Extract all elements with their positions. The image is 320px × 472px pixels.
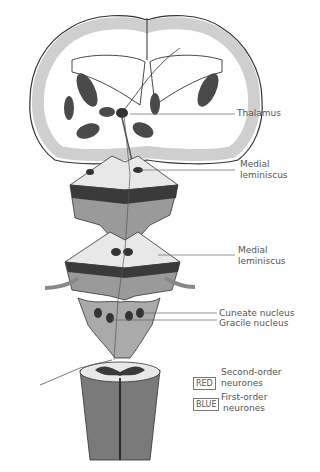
cuneate-nucleus-left	[94, 308, 102, 318]
midbrain-dot-left	[86, 169, 94, 175]
putamen-right	[150, 93, 160, 115]
label-gracile-nucleus: Gracile nucleus	[219, 318, 288, 329]
gracile-nucleus	[106, 313, 114, 323]
key-line: First-order	[221, 392, 267, 403]
thalamus-nucleus-right	[116, 108, 128, 118]
label-line: Medial	[238, 245, 286, 256]
key-text-second-order: Second-order neurones	[221, 367, 282, 388]
key-line: Second-order	[221, 367, 282, 378]
label-line: Medial	[240, 159, 288, 170]
key-line: neurones	[221, 378, 282, 389]
pons-section	[45, 232, 195, 300]
key-text-first-order: First-order neurones	[221, 392, 267, 413]
label-line: leminiscus	[240, 170, 288, 181]
thalamus-nucleus-left	[99, 107, 115, 117]
medulla-section	[78, 298, 160, 358]
midbrain-section	[70, 156, 178, 245]
putamen-left	[64, 96, 74, 120]
label-medial-lemniscus-upper: Medial leminiscus	[240, 159, 288, 180]
label-line: leminiscus	[238, 256, 286, 267]
label-thalamus: Thalamus	[237, 108, 281, 119]
medulla-shape	[78, 298, 160, 358]
label-cuneate-nucleus: Cuneate nucleus	[219, 308, 294, 319]
cuneate-nucleus-right	[125, 311, 133, 321]
label-medial-lemniscus-lower: Medial leminiscus	[238, 245, 286, 266]
key-swatch-red: RED	[193, 377, 216, 390]
medial-lemniscus-dot-lower-left	[111, 248, 121, 256]
key-line: neurones	[221, 403, 267, 414]
brain-coronal-section	[30, 16, 263, 165]
key-swatch-blue: BLUE	[193, 398, 219, 411]
